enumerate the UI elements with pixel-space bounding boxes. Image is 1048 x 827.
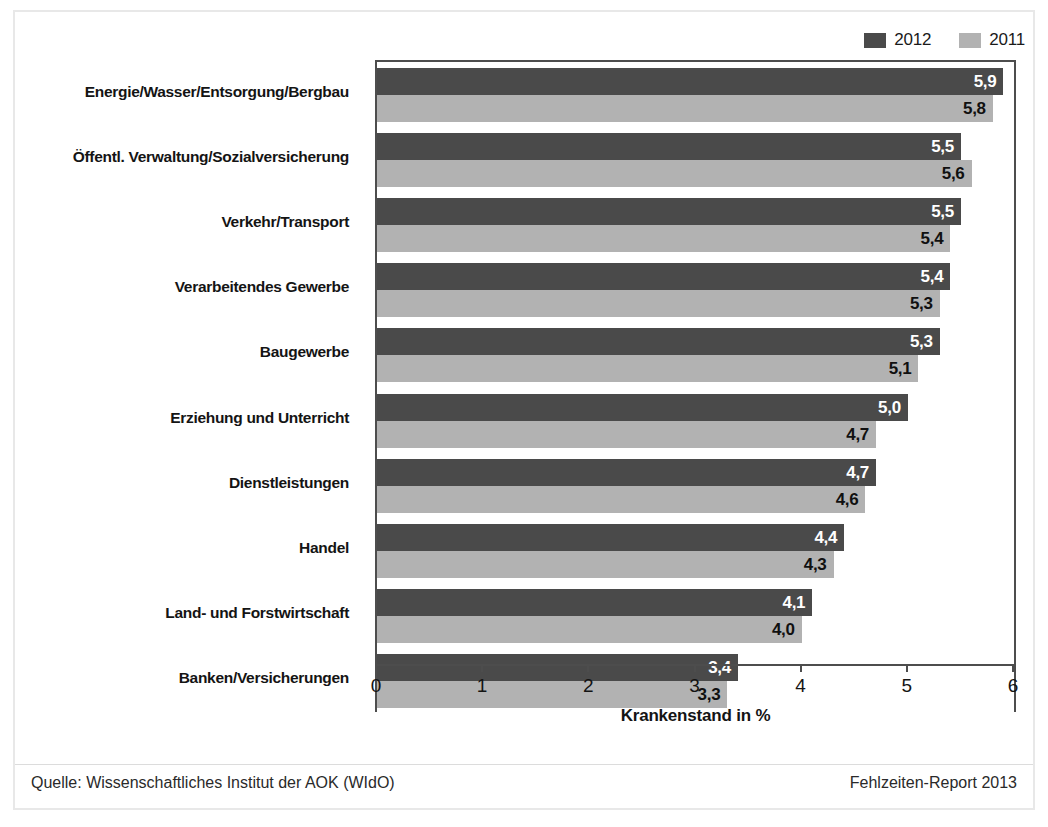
- x-axis-tick-label: 6: [993, 675, 1033, 697]
- legend-swatch-2011: [959, 33, 981, 48]
- x-axis-tick: [1012, 664, 1014, 672]
- chart-legend: 2012 2011: [864, 30, 1025, 50]
- footer-source: Quelle: Wissenschaftliches Institut der …: [31, 774, 395, 792]
- bar-2011[interactable]: 5,3: [377, 290, 940, 317]
- bar-2012[interactable]: 5,4: [377, 263, 950, 290]
- x-axis-line: [375, 664, 1016, 666]
- bar-2011[interactable]: 4,0: [377, 616, 802, 643]
- x-axis-tick: [800, 664, 802, 672]
- bar-2011[interactable]: 5,8: [377, 95, 993, 122]
- x-axis-tick: [481, 664, 483, 672]
- category-label: Land- und Forstwirtschaft: [9, 604, 349, 622]
- x-axis-tick-label: 3: [675, 675, 715, 697]
- x-axis: Krankenstand in % 0123456: [375, 664, 1016, 724]
- bar-value-label: 5,8: [963, 100, 993, 117]
- bar-group: 5,55,4: [377, 192, 1014, 257]
- legend-item-2011[interactable]: 2011: [959, 30, 1025, 50]
- bar-value-label: 5,4: [921, 268, 951, 285]
- bar-value-label: 5,3: [910, 333, 940, 350]
- legend-item-2012[interactable]: 2012: [864, 30, 931, 50]
- bar-value-label: 4,6: [836, 491, 866, 508]
- bar-value-label: 4,7: [846, 426, 876, 443]
- bar-value-label: 5,6: [942, 165, 972, 182]
- bar-value-label: 5,5: [931, 203, 961, 220]
- bar-2011[interactable]: 4,3: [377, 551, 834, 578]
- bar-2012[interactable]: 4,4: [377, 524, 844, 551]
- x-axis-tick: [694, 664, 696, 672]
- bar-2012[interactable]: 5,3: [377, 328, 940, 355]
- legend-label-2012: 2012: [894, 30, 931, 50]
- bar-value-label: 5,1: [889, 360, 919, 377]
- x-axis-tick-label: 4: [781, 675, 821, 697]
- bar-group: 4,74,6: [377, 453, 1014, 518]
- x-axis-tick-label: 0: [356, 675, 396, 697]
- bar-value-label: 4,4: [814, 529, 844, 546]
- bar-2011[interactable]: 5,4: [377, 225, 950, 252]
- x-axis-tick: [906, 664, 908, 672]
- category-label: Verarbeitendes Gewerbe: [9, 278, 349, 296]
- bar-value-label: 4,1: [783, 594, 813, 611]
- category-label: Dienstleistungen: [9, 474, 349, 492]
- bar-group: 4,14,0: [377, 584, 1014, 649]
- legend-label-2011: 2011: [989, 30, 1025, 50]
- bar-value-label: 5,3: [910, 295, 940, 312]
- category-label: Erziehung und Unterricht: [9, 409, 349, 427]
- chart-plot-area: Energie/Wasser/Entsorgung/BergbauÖffentl…: [15, 60, 1033, 720]
- footer-report: Fehlzeiten-Report 2013: [850, 774, 1017, 792]
- x-axis-tick: [587, 664, 589, 672]
- category-axis-labels: Energie/Wasser/Entsorgung/BergbauÖffentl…: [15, 60, 362, 712]
- category-label: Öffentl. Verwaltung/Sozialversicherung: [9, 148, 349, 166]
- bar-group: 5,35,1: [377, 323, 1014, 388]
- bar-2012[interactable]: 5,5: [377, 133, 961, 160]
- bar-2011[interactable]: 5,6: [377, 160, 972, 187]
- bar-2012[interactable]: 5,5: [377, 198, 961, 225]
- category-label: Banken/Versicherungen: [9, 669, 349, 687]
- bar-2011[interactable]: 4,6: [377, 486, 865, 513]
- bar-2012[interactable]: 5,9: [377, 68, 1003, 95]
- bar-value-label: 5,4: [921, 230, 951, 247]
- legend-swatch-2012: [864, 33, 886, 48]
- bar-2011[interactable]: 5,1: [377, 355, 918, 382]
- category-label: Baugewerbe: [9, 343, 349, 361]
- bar-group: 5,55,6: [377, 127, 1014, 192]
- bar-value-label: 5,0: [878, 399, 908, 416]
- bar-value-label: 4,0: [772, 621, 802, 638]
- x-axis-title: Krankenstand in %: [375, 706, 1016, 726]
- bar-value-label: 5,9: [974, 73, 1004, 90]
- category-label: Verkehr/Transport: [9, 213, 349, 231]
- category-label: Handel: [9, 539, 349, 557]
- chart-figure: 2012 2011 Energie/Wasser/Entsorgung/Berg…: [13, 10, 1035, 810]
- bar-2012[interactable]: 4,7: [377, 459, 876, 486]
- bars-container: 5,95,85,55,65,55,45,45,35,35,15,04,74,74…: [375, 60, 1016, 712]
- chart-footer: Quelle: Wissenschaftliches Institut der …: [31, 774, 1017, 792]
- footer-divider: [15, 764, 1033, 765]
- x-axis-tick-label: 5: [887, 675, 927, 697]
- bar-2012[interactable]: 5,0: [377, 394, 908, 421]
- x-axis-tick-label: 2: [568, 675, 608, 697]
- bar-group: 4,44,3: [377, 518, 1014, 583]
- x-axis-tick: [375, 664, 377, 672]
- bar-value-label: 4,3: [804, 556, 834, 573]
- bar-2012[interactable]: 4,1: [377, 589, 812, 616]
- bar-value-label: 4,7: [846, 464, 876, 481]
- x-axis-tick-label: 1: [462, 675, 502, 697]
- bar-value-label: 5,5: [931, 138, 961, 155]
- bar-group: 5,04,7: [377, 388, 1014, 453]
- bar-2011[interactable]: 4,7: [377, 421, 876, 448]
- bar-group: 5,45,3: [377, 258, 1014, 323]
- category-label: Energie/Wasser/Entsorgung/Bergbau: [9, 83, 349, 101]
- bar-group: 5,95,8: [377, 62, 1014, 127]
